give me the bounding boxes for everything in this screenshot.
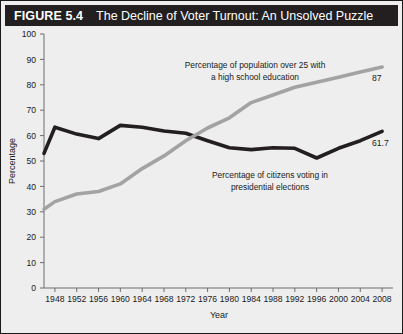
figure-container: FIGURE 5.4 The Decline of Voter Turnout:… <box>0 0 403 334</box>
x-axis-tick-label: 1968 <box>154 294 173 304</box>
y-axis-tick-label: 40 <box>26 182 36 192</box>
x-axis-tick-label: 1988 <box>263 294 282 304</box>
y-axis-title: Percentage <box>7 138 17 184</box>
y-axis-tick-label: 80 <box>26 80 36 90</box>
x-axis-tick-label: 1980 <box>220 294 239 304</box>
figure-title-bar: FIGURE 5.4 The Decline of Voter Turnout:… <box>5 5 398 26</box>
y-axis-tick-group: 0102030405060708090100 <box>22 29 44 293</box>
line-chart: 0102030405060708090100 19481952195619601… <box>1 26 403 334</box>
end-value-label-education: 87 <box>372 73 382 83</box>
y-axis-tick-label: 90 <box>26 55 36 65</box>
x-axis-tick-label: 2004 <box>351 294 370 304</box>
y-axis-tick-label: 60 <box>26 131 36 141</box>
plot-area-wrapper: 0102030405060708090100 19481952195619601… <box>1 26 403 334</box>
end-value-label-voting: 61.7 <box>372 138 389 148</box>
y-axis-tick-label: 50 <box>26 156 36 166</box>
y-axis-tick-label: 10 <box>26 258 36 268</box>
x-axis-tick-label: 1956 <box>89 294 108 304</box>
x-axis-tick-label: 1976 <box>198 294 217 304</box>
x-axis-tick-group: 1948195219561960196419681972197619801984… <box>45 288 392 304</box>
y-axis-tick-label: 30 <box>26 207 36 217</box>
x-axis-title: Year <box>210 310 228 320</box>
x-axis-tick-label: 2000 <box>329 294 348 304</box>
y-axis-tick-label: 70 <box>26 105 36 115</box>
x-axis-tick-label: 1964 <box>133 294 152 304</box>
x-axis-tick-label: 2008 <box>373 294 392 304</box>
annotation-voting-line1: Percentage of citizens voting in <box>212 170 328 180</box>
data-series-group <box>44 67 382 209</box>
x-axis-tick-label: 1960 <box>111 294 130 304</box>
series-line-voting <box>44 125 382 158</box>
figure-title-text: The Decline of Voter Turnout: An Unsolve… <box>96 9 373 23</box>
x-axis-tick-label: 1984 <box>242 294 261 304</box>
y-axis-tick-label: 20 <box>26 232 36 242</box>
x-axis-tick-label: 1992 <box>285 294 304 304</box>
y-axis-tick-label: 100 <box>22 29 37 39</box>
y-axis-tick-label: 0 <box>31 283 36 293</box>
figure-number-label: FIGURE 5.4 <box>14 9 83 23</box>
x-axis-tick-label: 1996 <box>307 294 326 304</box>
x-axis-tick-label: 1948 <box>45 294 64 304</box>
annotation-education-line1: Percentage of population over 25 with <box>185 60 326 70</box>
annotation-voting-line2: presidential elections <box>231 182 309 192</box>
x-axis-tick-label: 1952 <box>67 294 86 304</box>
annotation-education-line2: a high school education <box>211 72 299 82</box>
x-axis-tick-label: 1972 <box>176 294 195 304</box>
